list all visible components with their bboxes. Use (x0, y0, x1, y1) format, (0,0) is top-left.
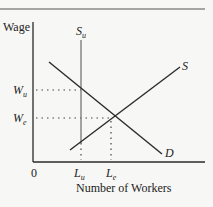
wage-union-label: Wu (13, 83, 27, 99)
wage-equilibrium-label: We (13, 111, 27, 127)
origin-label: 0 (31, 166, 37, 180)
demand-label: D (164, 146, 174, 160)
demand-curve (49, 62, 162, 154)
labor-equilibrium-label: Le (105, 166, 117, 182)
y-axis-label: Wage (3, 20, 30, 34)
supply-label: S (182, 59, 188, 73)
labor-union-label: Lu (73, 166, 85, 182)
x-axis-label: Number of Workers (76, 181, 172, 195)
labor-market-diagram: Wage Su S D Wu We 0 Lu Le Number of Work… (0, 0, 213, 207)
union-supply-label: Su (76, 24, 86, 40)
supply-curve (70, 67, 180, 150)
